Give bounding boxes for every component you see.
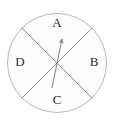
spinner-diagram: A B C D [0, 0, 114, 127]
sector-label-a: A [52, 15, 62, 30]
spinner-figure: A B C D [0, 0, 114, 127]
sector-label-d: D [15, 54, 24, 69]
spinner-pivot [56, 62, 59, 65]
sector-label-b: B [90, 54, 99, 69]
sector-label-c: C [53, 92, 62, 107]
